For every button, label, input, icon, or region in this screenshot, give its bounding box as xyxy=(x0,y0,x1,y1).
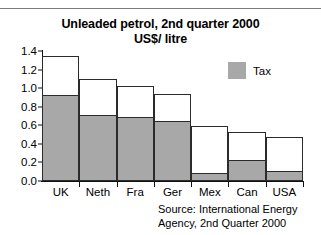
y-axis-tick-label: 0.4 xyxy=(0,138,42,150)
y-axis-tick-label: 0.2 xyxy=(0,156,42,168)
x-axis-label-ger: Ger xyxy=(163,186,182,198)
source-note-line-2: Agency, 2nd Quarter 2000 xyxy=(158,217,297,231)
x-axis-tick-mark xyxy=(79,181,80,187)
chart-subtitle: US$/ litre xyxy=(0,32,321,47)
y-axis-tick-mark xyxy=(38,51,42,52)
x-axis-line xyxy=(41,181,304,182)
bar-ger xyxy=(154,94,191,181)
plot-area: 1.41.21.00.80.60.40.20.0 xyxy=(42,51,303,181)
x-axis-tick-mark xyxy=(266,181,267,187)
y-axis-tick-label: 0.0 xyxy=(0,175,42,187)
x-axis-label-neth: Neth xyxy=(86,186,110,198)
chart-title-block: Unleaded petrol, 2nd quarter 2000 US$/ l… xyxy=(0,17,321,47)
x-axis-label-usa: USA xyxy=(273,186,297,198)
bar-tax-segment-uk xyxy=(43,95,78,180)
bar-mex xyxy=(191,126,228,181)
y-axis-tick-label: 1.4 xyxy=(0,45,42,57)
x-axis-tick-mark xyxy=(191,181,192,187)
bar-tax-segment-fra xyxy=(118,117,153,180)
top-divider xyxy=(0,8,321,9)
x-axis-tick-mark xyxy=(303,181,304,187)
bar-tax-segment-neth xyxy=(80,115,115,180)
bar-tax-segment-ger xyxy=(155,121,190,180)
chart-figure: Unleaded petrol, 2nd quarter 2000 US$/ l… xyxy=(0,0,321,235)
x-axis-label-uk: UK xyxy=(53,186,69,198)
source-note: Source: International Energy Agency, 2nd… xyxy=(158,203,297,230)
x-axis-label-fra: Fra xyxy=(127,186,144,198)
bar-can xyxy=(228,132,265,181)
x-axis-tick-mark xyxy=(228,181,229,187)
x-axis-tick-mark xyxy=(117,181,118,187)
chart-title: Unleaded petrol, 2nd quarter 2000 xyxy=(0,17,321,32)
bar-tax-segment-usa xyxy=(267,171,302,180)
x-axis-label-mex: Mex xyxy=(199,186,221,198)
bar-tax-segment-mex xyxy=(192,173,227,180)
source-note-line-1: Source: International Energy xyxy=(158,203,297,217)
y-axis-tick-label: 0.8 xyxy=(0,101,42,113)
x-axis-tick-mark xyxy=(154,181,155,187)
x-axis-label-can: Can xyxy=(237,186,258,198)
bar-fra xyxy=(117,86,154,181)
bar-usa xyxy=(266,137,303,181)
y-axis-tick-label: 0.6 xyxy=(0,119,42,131)
bar-uk xyxy=(42,56,79,181)
bar-tax-segment-can xyxy=(229,160,264,180)
y-axis-tick-label: 1.0 xyxy=(0,82,42,94)
y-axis-tick-label: 1.2 xyxy=(0,64,42,76)
bar-neth xyxy=(79,79,116,181)
